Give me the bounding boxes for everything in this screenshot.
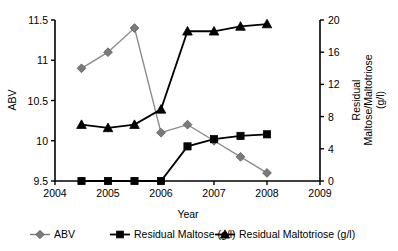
data-series [77,19,272,184]
x-tick-label: 2004 [43,187,67,199]
x-tick-label: 2005 [96,187,120,199]
y2-axis-title-line3: (g/l) [374,91,386,109]
x-axis-title: Year [177,208,199,220]
legend-marker [36,230,44,238]
x-tick-label: 2009 [308,187,332,199]
data-point-marker [77,120,87,129]
data-point-marker [157,177,164,184]
legend-item-1: ABV [30,228,75,240]
y-tick-label: 10 [36,135,48,147]
data-point-marker [131,177,138,184]
series-1 [77,24,271,178]
y2-axis-title-line1: Residual [350,80,362,121]
chart-container: 9.51010.51111.50481216202004200520062007… [0,0,398,251]
data-point-marker [104,177,111,184]
legend-item-3: Residual Maltotriose (g/l) [215,228,355,240]
y2-tick-label: 4 [328,143,334,155]
data-point-marker [184,143,191,150]
x-tick-label: 2008 [255,187,279,199]
data-point-marker [210,136,217,143]
data-point-marker [263,131,270,138]
y-axis-title: ABV [6,89,18,110]
data-point-marker [236,152,245,161]
y2-tick-label: 20 [328,14,340,26]
data-point-marker [156,105,166,114]
series-3 [77,19,272,131]
data-point-marker [130,120,140,129]
y2-tick-label: 8 [328,111,334,123]
legend-marker [117,231,124,238]
data-point-marker [237,132,244,139]
y2-tick-label: 0 [328,175,334,187]
series-line [82,24,268,128]
y2-axis-title: Residual Maltose/Maltotriose (g/l) [350,54,386,145]
y-tick-label: 11 [37,54,48,66]
line-chart: 9.51010.51111.50481216202004200520062007… [0,0,398,251]
data-point-marker [183,120,192,129]
plot-area: 9.51010.51111.50481216202004200520062007… [28,14,340,199]
y-tick-label: 11.5 [28,14,48,26]
y-tick-label: 10.5 [28,95,49,107]
data-point-marker [78,177,85,184]
y-tick-label: 9.5 [33,175,48,187]
legend-label: ABV [54,228,75,240]
chart-legend: ABVResidual Maltose (g/l)Residual Maltot… [30,228,355,240]
axis-ticks [51,20,324,185]
x-tick-label: 2007 [202,187,226,199]
data-point-marker [263,169,272,178]
y2-tick-label: 16 [328,46,340,58]
axes [55,20,320,181]
x-tick-label: 2006 [149,187,173,199]
y2-tick-label: 12 [328,78,340,90]
data-point-marker [157,128,166,137]
y2-axis-title-line2: Maltose/Maltotriose [362,54,374,145]
data-point-marker [77,64,86,73]
legend-label: Residual Maltotriose (g/l) [239,228,355,240]
